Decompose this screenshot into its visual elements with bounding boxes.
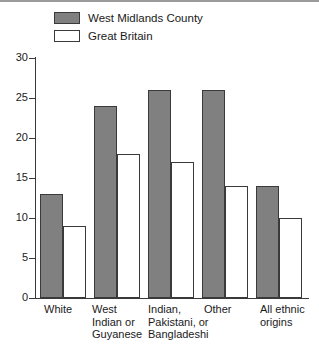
legend-item-west-midlands-county: West Midlands County <box>54 10 203 25</box>
y-axis-tick-mark <box>29 138 35 139</box>
bar-group <box>94 58 140 298</box>
bar-group <box>148 58 194 298</box>
chart-legend: West Midlands County Great Britain <box>54 10 203 46</box>
y-axis-tick-value: 5 <box>2 252 28 263</box>
bar <box>63 226 86 298</box>
bar-group <box>40 58 86 298</box>
bar <box>148 90 171 298</box>
x-axis-category-label: West Indian or Guyanese <box>92 303 142 341</box>
bar <box>117 154 140 298</box>
y-axis-tick-label: 10 <box>0 212 28 223</box>
y-axis-tick-mark <box>29 218 35 219</box>
y-axis-tick-mark <box>29 178 35 179</box>
bar <box>202 90 225 298</box>
y-axis-tick-mark <box>29 98 35 99</box>
y-axis-tick-label: 0 <box>0 292 28 303</box>
bar-group <box>202 58 248 298</box>
y-axis-tick-label: 15 <box>0 172 28 183</box>
y-axis-tick-mark <box>29 58 35 59</box>
bar <box>40 194 63 298</box>
y-axis-tick-mark <box>29 298 35 299</box>
y-axis-tick-label: 5 <box>0 252 28 263</box>
x-axis-category-label: All ethnic origins <box>260 303 305 328</box>
bar <box>256 186 279 298</box>
y-axis-tick-value: 15 <box>2 172 28 183</box>
y-axis-tick-value: 10 <box>2 212 28 223</box>
plot-area <box>36 58 308 298</box>
legend-swatch-icon <box>54 30 80 42</box>
y-axis-tick-value: 25 <box>2 92 28 103</box>
legend-swatch-icon <box>54 12 80 24</box>
x-axis-line <box>35 298 309 299</box>
bar <box>225 186 248 298</box>
y-axis-tick-label: 30 <box>0 52 28 63</box>
y-axis-tick-value: 30 <box>2 52 28 63</box>
x-axis-category-label: White <box>44 303 72 316</box>
x-axis-category-label: Other <box>204 303 232 316</box>
y-axis-tick-mark <box>29 258 35 259</box>
scan-artifact-line <box>0 0 319 2</box>
y-axis-tick-value: 0 <box>2 292 28 303</box>
bar-chart: West Midlands County Great Britain 30252… <box>0 0 319 348</box>
x-axis-category-label: Indian, Pakistani, or Bangladeshi <box>148 303 209 341</box>
y-axis-tick-label: 25 <box>0 92 28 103</box>
bar <box>279 218 302 298</box>
bar <box>171 162 194 298</box>
y-axis-tick-label: 20 <box>0 132 28 143</box>
legend-label: West Midlands County <box>88 12 203 24</box>
legend-label: Great Britain <box>88 30 153 42</box>
bar-group <box>256 58 302 298</box>
y-axis-tick-value: 20 <box>2 132 28 143</box>
legend-item-great-britain: Great Britain <box>54 28 203 43</box>
bar <box>94 106 117 298</box>
